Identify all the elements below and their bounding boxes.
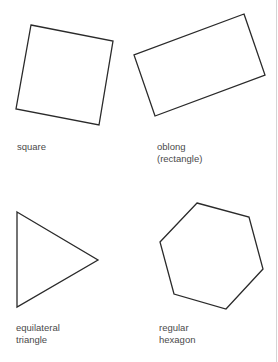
triangle-label-line-1: equilateral xyxy=(16,322,60,334)
square-label-line-1: square xyxy=(17,141,46,153)
oblong-label: oblong (rectangle) xyxy=(157,141,202,165)
square-label: square xyxy=(17,141,46,153)
hexagon-label-line-2: hexagon xyxy=(159,334,195,346)
oblong-shape xyxy=(134,14,265,116)
oblong-label-line-1: oblong xyxy=(157,141,202,153)
equilateral-triangle-shape xyxy=(17,212,98,307)
regular-hexagon-shape xyxy=(160,203,263,309)
shapes-diagram xyxy=(0,0,278,362)
hexagon-label: regular hexagon xyxy=(159,322,195,346)
triangle-label: equilateral triangle xyxy=(16,322,60,346)
hexagon-label-line-1: regular xyxy=(159,322,195,334)
oblong-label-line-2: (rectangle) xyxy=(157,153,202,165)
square-shape xyxy=(16,25,113,125)
triangle-label-line-2: triangle xyxy=(16,334,60,346)
page-edge-divider xyxy=(276,0,277,362)
